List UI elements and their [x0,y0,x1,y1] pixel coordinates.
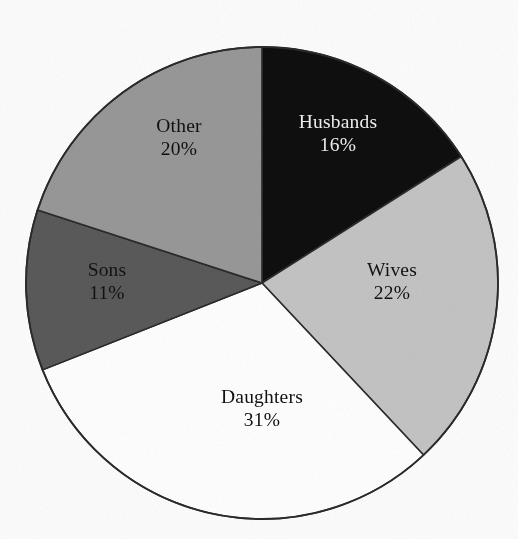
slice-name-sons: Sons [57,258,157,281]
slice-value-sons: 11% [57,281,157,304]
pie-chart: Husbands 16% Wives 22% Daughters 31% Son… [0,0,518,539]
slice-label-other: Other 20% [124,114,234,160]
slice-value-wives: 22% [332,281,452,304]
slice-name-other: Other [124,114,234,137]
slice-value-husbands: 16% [268,133,408,156]
slice-value-other: 20% [124,137,234,160]
slice-name-wives: Wives [332,258,452,281]
slice-value-daughters: 31% [182,408,342,431]
slice-name-daughters: Daughters [182,385,342,408]
slice-label-daughters: Daughters 31% [182,385,342,431]
slice-label-sons: Sons 11% [57,258,157,304]
slice-label-wives: Wives 22% [332,258,452,304]
slice-label-husbands: Husbands 16% [268,110,408,156]
slice-name-husbands: Husbands [268,110,408,133]
